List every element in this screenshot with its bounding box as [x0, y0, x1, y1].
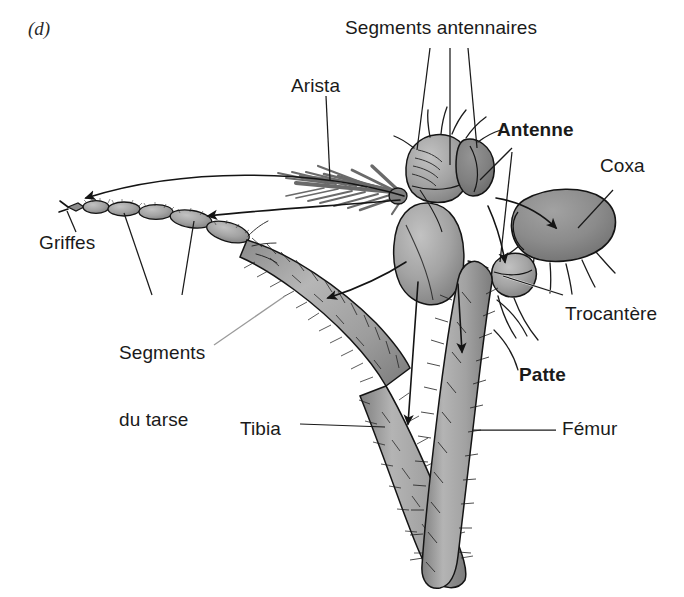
label-antenne: Antenne: [497, 119, 574, 141]
figure-panel: (d) Segments antennaires Arista Antenne …: [0, 0, 684, 597]
label-arista: Arista: [291, 75, 340, 97]
label-segments-du-tarse-line2: du tarse: [119, 409, 205, 431]
anatomy-illustration: [0, 0, 684, 597]
segments-du-tarse-structure: [83, 198, 252, 247]
label-segments-du-tarse-line1: Segments: [119, 342, 205, 364]
label-segments-antennaires: Segments antennaires: [345, 17, 537, 39]
label-segments-du-tarse: Segments du tarse: [119, 297, 205, 476]
panel-letter: (d): [28, 18, 50, 40]
griffes-structure: [59, 201, 84, 212]
femur-structure: [410, 261, 527, 588]
label-trocantere: Trocantère: [565, 303, 657, 325]
label-patte: Patte: [519, 364, 566, 386]
label-coxa: Coxa: [600, 155, 645, 177]
tibia-structure: [240, 238, 410, 386]
arista-structure: [278, 166, 404, 214]
label-griffes: Griffes: [39, 232, 95, 254]
label-tibia: Tibia: [240, 418, 281, 440]
label-femur: Fémur: [562, 418, 617, 440]
